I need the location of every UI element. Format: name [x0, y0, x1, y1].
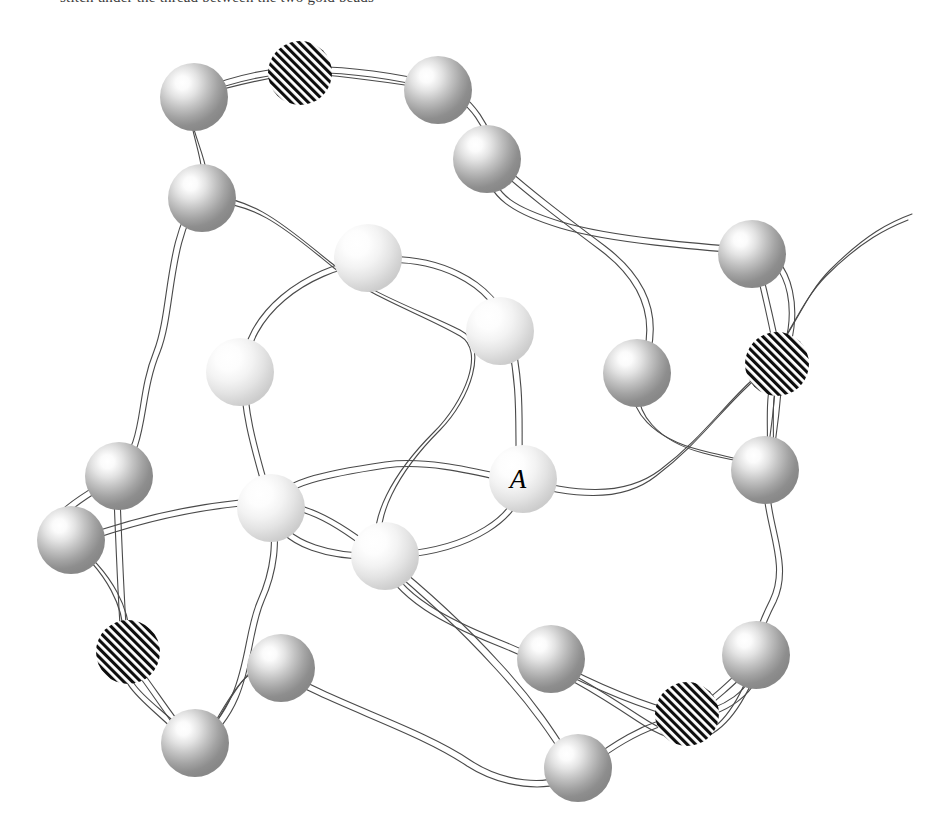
outer-gray-bead	[161, 709, 229, 777]
gold-hatched-bead	[268, 41, 332, 105]
thread-cross-4	[487, 155, 770, 470]
inner-bead-group	[206, 224, 557, 590]
outer-gray-bead	[544, 734, 612, 802]
thread-outer-loop	[55, 67, 795, 787]
inner-light-bead	[351, 522, 419, 590]
outer-gray-bead	[37, 506, 105, 574]
beaded-thread-figure: stitch under the thread between the two …	[0, 0, 935, 829]
inner-light-bead	[237, 474, 305, 542]
outer-gray-bead	[404, 56, 472, 124]
gold-hatched-bead	[655, 682, 719, 746]
outer-gray-bead	[722, 621, 790, 689]
outer-gray-bead	[718, 220, 786, 288]
bead-diagram-canvas: A	[0, 0, 935, 829]
bead-label-A: A	[508, 464, 527, 494]
outer-gray-bead	[603, 339, 671, 407]
outer-gray-bead	[731, 436, 799, 504]
inner-light-bead	[206, 338, 274, 406]
outer-gray-bead	[85, 442, 153, 510]
inner-light-bead	[334, 224, 402, 292]
outer-gray-bead	[247, 634, 315, 702]
outer-gray-bead	[517, 625, 585, 693]
inner-light-bead	[466, 297, 534, 365]
gold-hatched-bead	[745, 332, 809, 396]
outer-gray-bead	[453, 125, 521, 193]
outer-gray-bead	[160, 63, 228, 131]
gold-hatched-bead	[96, 620, 160, 684]
gold-hatched-bead-group	[96, 41, 809, 746]
outer-gray-bead	[168, 164, 236, 232]
